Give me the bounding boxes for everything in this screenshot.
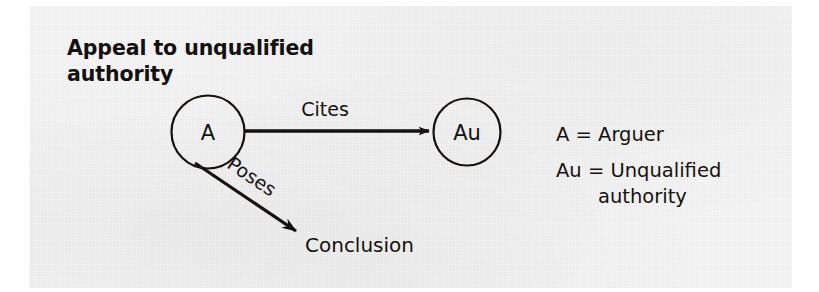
legend-value-arguer: Arguer	[598, 123, 664, 146]
legend-entry-arguer: A = Arguer	[556, 122, 721, 148]
legend-equals-unqualified-authority: =	[588, 159, 604, 182]
figure-page: Appeal to unqualified authority A Au Cit…	[0, 0, 819, 292]
legend-value-unqualified-authority: Unqualified	[610, 159, 721, 182]
legend-key-arguer: A	[556, 123, 569, 146]
figure-legend: A = Arguer Au = Unqualified authority	[556, 122, 721, 220]
legend-entry-unqualified-authority: Au = Unqualified authority	[556, 158, 721, 210]
node-label-unqualified-authority: Au	[453, 121, 481, 145]
legend-equals-arguer: =	[576, 123, 592, 146]
edge-label-poses: Poses	[223, 152, 280, 200]
legend-value-wrap-unqualified-authority: authority	[556, 184, 721, 210]
node-label-arguer: A	[201, 121, 216, 145]
terminal-label-conclusion: Conclusion	[305, 233, 414, 257]
legend-key-unqualified-authority: Au	[556, 159, 582, 182]
edge-label-cites: Cites	[301, 98, 349, 120]
